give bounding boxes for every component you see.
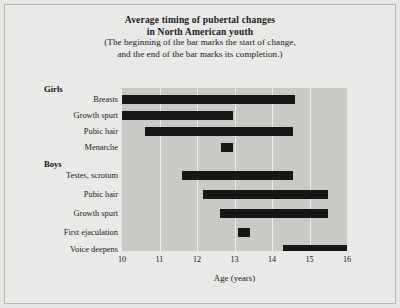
category-label-pubic-hair-girls: Pubic hair — [84, 127, 118, 137]
bar-voice-deepens-boys — [283, 245, 347, 251]
x-tick-12: 12 — [193, 255, 201, 264]
bar-menarche-girls — [221, 143, 232, 152]
x-tick-15: 15 — [305, 255, 313, 264]
category-label-breasts-girls: Breasts — [93, 95, 118, 105]
x-tick-11: 11 — [156, 255, 164, 264]
bar-growth-spurt-boys — [220, 209, 329, 218]
category-label-voice-deepens: Voice deepens — [70, 245, 118, 255]
x-tick-10: 10 — [118, 255, 126, 264]
category-label-pubic-hair-boys: Pubic hair — [84, 190, 118, 200]
bar-first-ejaculation-boys — [238, 228, 249, 237]
plot-area — [122, 88, 347, 251]
bar-pubic-hair-girls — [145, 127, 293, 136]
category-label-menarche: Menarche — [85, 143, 118, 153]
gridline-15 — [310, 88, 311, 251]
bar-pubic-hair-boys — [203, 190, 329, 199]
x-tick-16: 16 — [343, 255, 351, 264]
x-axis-title: Age (years) — [122, 273, 347, 283]
category-label-growth-spurt-girls: Growth spurt — [74, 111, 118, 121]
bar-growth-spurt-girls — [122, 111, 233, 120]
category-label-first-ejaculation: First ejaculation — [64, 228, 118, 238]
category-label-growth-spurt-boys: Growth spurt — [74, 209, 118, 219]
bar-testes-scrotum-boys — [182, 171, 293, 180]
group-header-boys: Boys — [44, 159, 62, 169]
figure-canvas: Average timing of pubertal changes in No… — [0, 0, 400, 308]
x-axis-ticks: 10111213141516 — [0, 255, 400, 269]
category-label-testes-scrotum: Testes, scrotum — [66, 171, 118, 181]
group-header-girls: Girls — [44, 84, 63, 94]
x-tick-13: 13 — [230, 255, 238, 264]
x-tick-14: 14 — [268, 255, 276, 264]
gridline-14 — [272, 88, 273, 251]
bar-breasts-girls — [122, 95, 295, 104]
gridline-13 — [235, 88, 236, 251]
